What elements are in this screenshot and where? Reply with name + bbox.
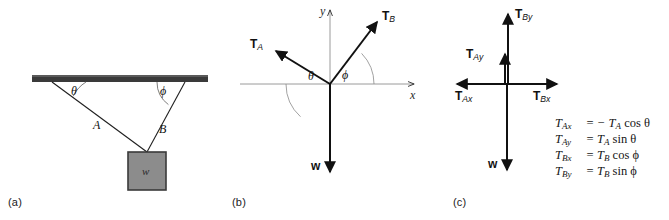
equation-lhs-subscript: Ay	[562, 137, 571, 147]
angle-theta-label: θ	[71, 84, 77, 99]
angle-arc-theta	[286, 84, 301, 117]
tension-ax-label: TAx	[455, 90, 472, 104]
panel-b: y x θ ϕ TA TB w (b)	[222, 0, 447, 220]
equation-row: TAy=TA sin θ	[555, 132, 650, 148]
panel-a-caption: (a)	[8, 196, 22, 208]
equation-angle: ϕ	[630, 164, 637, 178]
equation-rhs: TB	[597, 148, 609, 162]
equation-lhs: TAx	[555, 116, 583, 132]
ceiling-bar-highlight	[32, 75, 208, 77]
weight-symbol: w	[488, 157, 497, 171]
panel-c-drawing	[443, 0, 669, 220]
weight-label: w	[311, 160, 320, 172]
equation-lhs-subscript: Bx	[562, 153, 572, 163]
equation-row: TBy=TB sin ϕ	[555, 164, 650, 180]
tension-ay-label: TAy	[466, 48, 483, 62]
equation-equals-sign: =	[583, 132, 597, 147]
equation-equals-sign: =	[583, 116, 597, 131]
panel-b-caption: (b)	[232, 196, 246, 208]
tension-a-label: TA	[250, 38, 263, 52]
equation-function: sin	[609, 164, 630, 178]
equation-row: TBx=TB cos ϕ	[555, 148, 650, 164]
equation-rhs: TB	[597, 164, 609, 178]
tension-bx-subscript: Bx	[540, 94, 550, 104]
panel-c-caption: (c)	[453, 196, 466, 208]
tension-by-subscript: By	[522, 12, 532, 22]
panel-c: TBy TAy TAx TBx w TAx=− TA cos θTAy=TA s…	[443, 0, 669, 220]
tension-ax-subscript: Ax	[462, 94, 472, 104]
equation-lhs-subscript: Ax	[562, 121, 572, 131]
weight-symbol: w	[311, 159, 320, 173]
equation-angle: θ	[644, 116, 650, 130]
equation-angle: ϕ	[632, 148, 639, 162]
panel-a-drawing	[0, 0, 230, 220]
panel-a: θ ϕ A B w (a)	[0, 0, 230, 220]
tension-a-subscript: A	[257, 42, 263, 52]
angle-arc-phi	[362, 53, 374, 84]
tension-b-subscript: B	[389, 14, 395, 24]
equation-lhs: TAy	[555, 132, 583, 148]
angle-phi-label: ϕ	[342, 68, 348, 83]
equation-equals-sign: =	[583, 148, 597, 163]
tension-ay-subscript: Ay	[473, 52, 483, 62]
component-equations: TAx=− TA cos θTAy=TA sin θTBx=TB cos ϕTB…	[555, 116, 650, 179]
tension-b-vector	[330, 22, 377, 84]
equation-function: sin	[609, 132, 630, 146]
equation-lhs: TBy	[555, 164, 583, 180]
equation-function: cos	[621, 116, 644, 130]
equation-rhs: TA	[597, 132, 609, 146]
tension-a-vector	[276, 51, 330, 84]
equation-equals-sign: =	[583, 164, 597, 179]
string-b-label: B	[159, 122, 166, 137]
angle-phi-label: ϕ	[160, 84, 166, 99]
physics-figure: θ ϕ A B w (a)	[0, 0, 669, 220]
string-a	[52, 82, 147, 152]
tension-bx-label: TBx	[533, 90, 550, 104]
equation-rhs: − TA	[597, 116, 621, 130]
equation-lhs-subscript: By	[562, 169, 572, 179]
x-axis-label: x	[410, 88, 415, 103]
equation-angle: θ	[630, 132, 636, 146]
equation-lhs: TBx	[555, 148, 583, 164]
panel-b-drawing	[222, 0, 447, 220]
string-a-label: A	[93, 118, 100, 133]
equation-row: TAx=− TA cos θ	[555, 116, 650, 132]
equation-function: cos	[609, 148, 632, 162]
angle-theta-label: θ	[308, 69, 314, 84]
weight-block-label: w	[142, 165, 149, 177]
y-axis-label: y	[320, 4, 325, 19]
tension-by-label: TBy	[515, 8, 532, 22]
weight-label: w	[488, 158, 497, 170]
tension-b-label: TB	[382, 10, 395, 24]
